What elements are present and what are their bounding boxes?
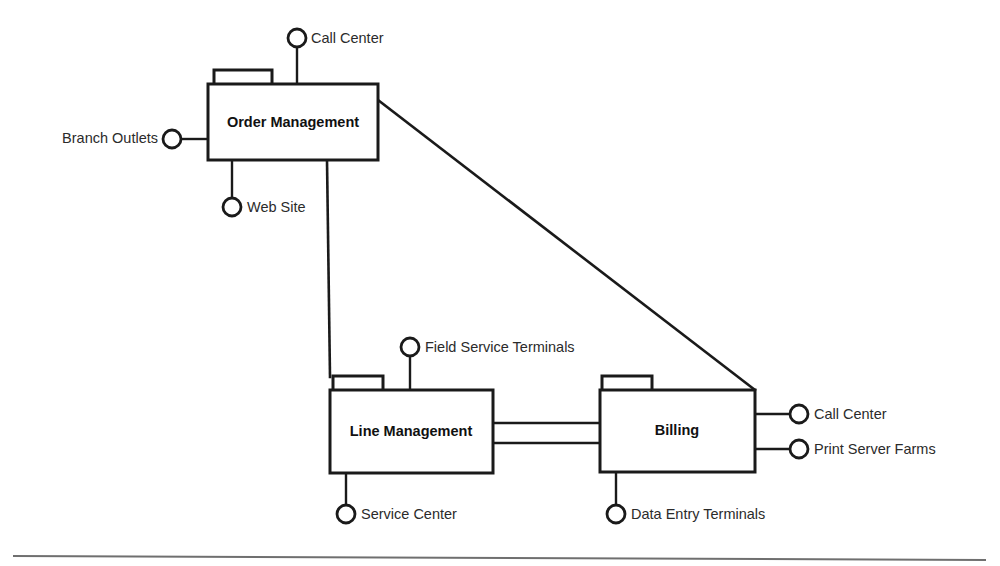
- interface-circle-call-center-top[interactable]: [288, 29, 306, 47]
- interface-branch-outlets[interactable]: Branch Outlets: [62, 130, 181, 148]
- interface-label-service-center: Service Center: [361, 506, 457, 522]
- interface-label-web-site: Web Site: [247, 199, 306, 215]
- interface-label-data-entry-terminals: Data Entry Terminals: [631, 506, 765, 522]
- interface-web-site[interactable]: Web Site: [223, 198, 306, 216]
- component-label-order-management: Order Management: [227, 114, 359, 130]
- interface-label-branch-outlets: Branch Outlets: [62, 130, 158, 146]
- component-diagram: Order Management Line Management Billing…: [0, 0, 1000, 566]
- interface-call-center-billing[interactable]: Call Center: [790, 405, 887, 423]
- interface-label-call-center-billing: Call Center: [814, 406, 887, 422]
- diagram-canvas: Order Management Line Management Billing…: [0, 0, 1000, 566]
- interface-label-field-service-terminals: Field Service Terminals: [425, 339, 575, 355]
- connection-order-to-line[interactable]: [327, 160, 330, 377]
- component-billing[interactable]: Billing: [600, 376, 755, 472]
- interface-print-server-farms[interactable]: Print Server Farms: [790, 440, 936, 458]
- interface-field-service-terminals[interactable]: Field Service Terminals: [401, 338, 575, 356]
- component-line-management[interactable]: Line Management: [330, 376, 493, 473]
- interface-data-entry-terminals[interactable]: Data Entry Terminals: [607, 505, 765, 523]
- interface-service-center[interactable]: Service Center: [337, 505, 457, 523]
- interface-circle-service-center[interactable]: [337, 505, 355, 523]
- interface-circle-call-center-billing[interactable]: [790, 405, 808, 423]
- interface-circle-branch-outlets[interactable]: [163, 130, 181, 148]
- interface-circle-web-site[interactable]: [223, 198, 241, 216]
- interface-circle-print-server-farms[interactable]: [790, 440, 808, 458]
- interface-call-center-top[interactable]: Call Center: [288, 29, 384, 47]
- interface-label-print-server-farms: Print Server Farms: [814, 441, 936, 457]
- interface-label-call-center-top: Call Center: [311, 30, 384, 46]
- component-order-management[interactable]: Order Management: [208, 70, 378, 160]
- interface-circle-data-entry-terminals[interactable]: [607, 505, 625, 523]
- footer-divider: [13, 556, 986, 560]
- interface-circle-field-service-terminals[interactable]: [401, 338, 419, 356]
- component-label-line-management: Line Management: [350, 423, 473, 439]
- component-label-billing: Billing: [655, 422, 699, 438]
- interface-group: Call Center Branch Outlets Web Site Fiel…: [62, 29, 936, 523]
